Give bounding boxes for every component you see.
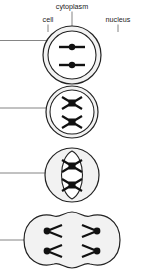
nucleus-membrane-1	[48, 31, 96, 79]
centromere-3b	[69, 182, 76, 189]
nucleus-membrane-2	[50, 90, 94, 134]
mitosis-diagram-canvas: cytoplasm cell nucleus	[0, 0, 141, 278]
cell-stage-2-prophase	[46, 86, 98, 138]
centromere-1a	[69, 44, 75, 50]
centromere-2b	[69, 119, 76, 126]
mitosis-diagram: cytoplasm cell nucleus	[0, 0, 141, 278]
cell-membrane-4	[24, 212, 120, 268]
centromere-2a	[69, 100, 76, 107]
centromere-4a	[44, 228, 51, 235]
label-nucleus: nucleus	[106, 15, 131, 24]
label-cytoplasm: cytoplasm	[56, 2, 88, 11]
nucleus-membrane-3	[62, 151, 83, 199]
cell-stage-4-anaphase	[24, 212, 120, 268]
centromere-4d	[94, 248, 101, 255]
centromere-1b	[69, 62, 75, 68]
centromere-3a	[69, 163, 76, 170]
cell-stage-1-interphase	[43, 26, 101, 84]
centromere-4c	[94, 228, 101, 235]
cell-stage-3-metaphase	[45, 148, 99, 202]
label-cell: cell	[43, 15, 54, 24]
centromere-4b	[44, 248, 51, 255]
